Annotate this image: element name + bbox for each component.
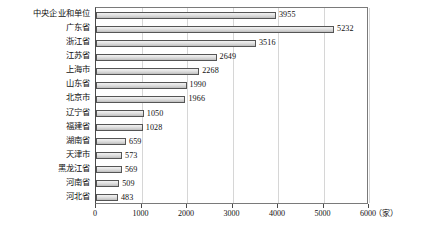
gridline [187,8,188,203]
category-label: 山东省 [66,77,90,91]
bar-value-label: 659 [129,138,141,146]
gridline [278,8,279,203]
x-axis-tick-label: 1000 [132,209,148,218]
bar-value-label: 569 [125,166,137,174]
category-label: 湖南省 [66,134,90,148]
x-axis-tick [232,204,233,208]
bar [96,124,143,131]
category-label: 河南省 [66,176,90,190]
bar [96,40,256,47]
category-label: 中央企业和单位 [33,7,90,21]
bar-value-label: 2649 [220,53,237,61]
bar-value-label: 573 [125,152,137,160]
horizontal-bar-chart: 中央企业和单位广东省浙江省江苏省上海市山东省北京市辽宁省福建省湖南省天津市黑龙江… [0,0,422,245]
category-label: 江苏省 [66,49,90,63]
bar [96,82,187,89]
bar [96,12,276,19]
category-label: 广东省 [66,21,90,35]
x-axis-tick [141,204,142,208]
bar [96,96,185,103]
x-axis-tick-label: 4000 [269,209,285,218]
category-label: 河北省 [66,190,90,204]
x-axis-tick [323,204,324,208]
bar [96,152,122,159]
gridline [142,8,143,203]
gridline [233,8,234,203]
x-axis-tick-label: 2000 [178,209,194,218]
gridline [324,8,325,203]
bar-value-label: 509 [122,180,134,188]
bar [96,26,334,33]
bar [96,166,122,173]
x-axis: 0100020003000400050006000 [95,204,368,224]
x-axis-unit-label: （家） [374,209,398,218]
bar-value-label: 3516 [259,39,276,47]
x-axis-tick [95,204,96,208]
category-label: 辽宁省 [66,106,90,120]
category-label: 北京市 [66,91,90,105]
bar-value-label: 5232 [337,25,354,33]
bar-value-label: 483 [121,194,133,202]
bar [96,194,118,201]
bar [96,68,199,75]
category-label: 上海市 [66,63,90,77]
bar-value-label: 2268 [202,67,219,75]
bar-value-label: 1966 [188,95,205,103]
category-label: 黑龙江省 [58,162,90,176]
bar-value-label: 1050 [147,110,164,118]
bar-value-label: 1028 [146,124,163,132]
gridline [369,8,370,203]
plot-area: 3955523235162649226819901966105010286595… [95,7,368,204]
bar [96,110,144,117]
bar-value-label: 1990 [190,81,207,89]
x-axis-tick-label: 0 [93,209,97,218]
x-axis-tick [277,204,278,208]
category-label: 福建省 [66,120,90,134]
category-label: 浙江省 [66,35,90,49]
x-axis-tick-label: 3000 [223,209,239,218]
category-label: 天津市 [66,148,90,162]
x-axis-tick-label: 5000 [314,209,330,218]
bar-value-label: 3955 [279,11,296,19]
bar [96,138,126,145]
x-axis-tick [186,204,187,208]
bar [96,54,217,61]
category-axis: 中央企业和单位广东省浙江省江苏省上海市山东省北京市辽宁省福建省湖南省天津市黑龙江… [0,7,93,204]
bar [96,180,119,187]
x-axis-tick [368,204,369,208]
